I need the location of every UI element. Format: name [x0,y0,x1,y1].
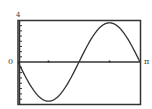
x-max-label: π [144,58,149,66]
origin-label: 0 [8,58,13,66]
y-max-label: 4 [16,11,20,19]
sine-plot [0,0,152,109]
